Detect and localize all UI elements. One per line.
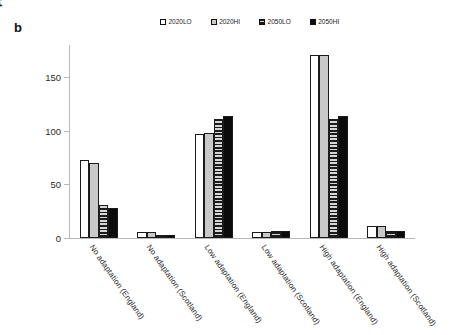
bar[interactable] xyxy=(99,205,109,238)
x-axis-category-label: High adaptation (England) xyxy=(317,243,379,326)
bar[interactable] xyxy=(271,231,281,239)
legend-item-2020HI[interactable]: 2020HI xyxy=(211,19,240,26)
y-tick-100 xyxy=(64,131,69,132)
chart-legend: 2020LO 2020HI 2050LO 2050HI xyxy=(160,19,339,26)
legend-item-2050HI[interactable]: 2050HI xyxy=(310,19,339,26)
x-axis-category-label: Low adaptation (Scotland) xyxy=(260,243,322,326)
bar[interactable] xyxy=(137,232,147,238)
y-axis-title: Present value (£M) xyxy=(0,0,4,52)
legend-swatch-icon-2020HI xyxy=(211,19,217,25)
bar[interactable] xyxy=(147,232,157,238)
bar-group: No adaptation (England) xyxy=(70,45,128,238)
bar[interactable] xyxy=(214,119,224,238)
legend-swatch-icon-2050LO xyxy=(259,19,265,25)
x-axis-category-label: Low adaptation (England) xyxy=(202,243,263,325)
bar-group: Low adaptation (Scotland) xyxy=(243,45,301,238)
bar[interactable] xyxy=(281,231,291,239)
legend-item-2020LO[interactable]: 2020LO xyxy=(160,19,192,26)
bar-group: No adaptation (Scotland) xyxy=(128,45,186,238)
bar[interactable] xyxy=(223,116,233,238)
legend-label-2020HI: 2020HI xyxy=(219,19,240,26)
y-tick-label-50: 50 xyxy=(50,179,61,190)
bar[interactable] xyxy=(156,235,166,238)
y-tick-150 xyxy=(64,77,69,78)
y-tick-label-150: 150 xyxy=(45,72,61,83)
y-tick-label-0: 0 xyxy=(56,233,61,244)
bar[interactable] xyxy=(338,116,348,238)
bar[interactable] xyxy=(195,134,205,238)
x-axis-line xyxy=(69,238,415,239)
y-tick-0 xyxy=(64,238,69,239)
panel-label: b xyxy=(14,20,22,35)
bar[interactable] xyxy=(166,235,176,238)
bar[interactable] xyxy=(108,208,118,238)
bar[interactable] xyxy=(377,226,387,238)
bar[interactable] xyxy=(80,160,90,238)
bar[interactable] xyxy=(262,232,272,238)
figure-panel-b: b 2020LO 2020HI 2050LO 2050HI Present va… xyxy=(0,0,464,335)
x-axis-category-label: No adaptation (Scotland) xyxy=(145,243,205,323)
legend-swatch-icon-2050HI xyxy=(310,19,316,25)
bar[interactable] xyxy=(329,119,339,238)
bar[interactable] xyxy=(204,133,214,238)
legend-swatch-icon-2020LO xyxy=(160,19,166,25)
legend-item-2050LO[interactable]: 2050LO xyxy=(259,19,291,26)
bar-group: Low adaptation (England) xyxy=(185,45,243,238)
x-axis-category-label: No adaptation (England) xyxy=(87,243,145,321)
bar[interactable] xyxy=(367,226,377,238)
x-axis-category-label: High adaptation (Scotland) xyxy=(375,243,438,328)
bar[interactable] xyxy=(310,55,320,238)
bar-group: High adaptation (Scotland) xyxy=(358,45,416,238)
plot-area: 050100150 No adaptation (England)No adap… xyxy=(70,45,415,238)
bar[interactable] xyxy=(89,163,99,238)
y-tick-label-100: 100 xyxy=(45,125,61,136)
y-tick-50 xyxy=(64,184,69,185)
legend-label-2050HI: 2050HI xyxy=(318,19,339,26)
bar-group: High adaptation (England) xyxy=(300,45,358,238)
bar[interactable] xyxy=(386,231,396,239)
legend-label-2020LO: 2020LO xyxy=(169,19,192,26)
bar[interactable] xyxy=(252,232,262,238)
bar[interactable] xyxy=(396,231,406,239)
bar[interactable] xyxy=(319,55,329,238)
legend-label-2050LO: 2050LO xyxy=(268,19,291,26)
